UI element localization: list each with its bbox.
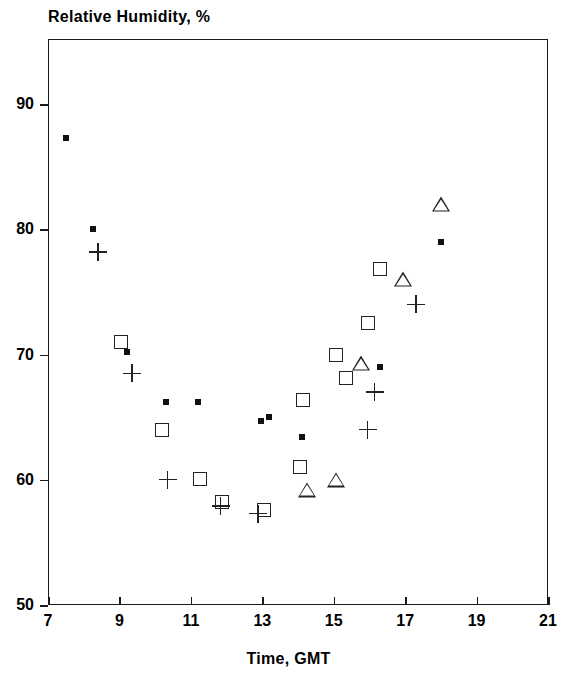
data-point-filled-square xyxy=(258,418,264,424)
data-point-plus xyxy=(159,471,177,489)
x-tick-label: 21 xyxy=(539,612,557,630)
data-point-triangle xyxy=(327,472,345,487)
triangle-inner xyxy=(329,475,343,486)
triangle-inner xyxy=(300,485,314,496)
data-point-filled-square xyxy=(266,414,272,420)
y-tick xyxy=(40,229,48,231)
y-tick-label: 80 xyxy=(16,220,34,238)
data-point-filled-square xyxy=(195,399,201,405)
x-tick xyxy=(334,597,336,605)
triangle-inner xyxy=(434,199,448,210)
relative-humidity-scatter-figure: Relative Humidity, % 5060708090 79111315… xyxy=(0,0,577,691)
data-point-filled-square xyxy=(377,364,383,370)
data-point-open-square xyxy=(193,472,207,486)
data-point-triangle xyxy=(352,356,370,371)
x-tick xyxy=(262,597,264,605)
plot-area xyxy=(48,39,548,605)
data-point-filled-square xyxy=(163,399,169,405)
x-tick-label: 19 xyxy=(468,612,486,630)
data-point-open-square xyxy=(114,335,128,349)
x-tick xyxy=(548,597,550,605)
data-point-plus xyxy=(89,243,107,261)
data-point-filled-square xyxy=(90,226,96,232)
data-point-triangle xyxy=(298,482,316,497)
data-point-open-square xyxy=(257,503,271,517)
triangle-inner xyxy=(396,274,410,285)
data-point-open-square xyxy=(373,262,387,276)
data-point-open-square xyxy=(339,371,353,385)
data-point-filled-square xyxy=(299,434,305,440)
data-point-triangle xyxy=(432,197,450,212)
data-point-plus xyxy=(359,421,377,439)
x-tick xyxy=(191,597,193,605)
data-point-open-square xyxy=(155,423,169,437)
x-tick-label: 11 xyxy=(182,612,199,630)
data-point-filled-square xyxy=(63,135,69,141)
data-point-plus xyxy=(366,383,384,401)
triangle-inner xyxy=(354,358,368,369)
data-point-filled-square xyxy=(124,349,130,355)
x-tick xyxy=(48,597,50,605)
x-axis-title: Time, GMT xyxy=(0,650,577,668)
data-point-open-square xyxy=(329,348,343,362)
x-tick xyxy=(477,597,479,605)
y-tick xyxy=(40,355,48,357)
x-tick-label: 13 xyxy=(253,612,271,630)
y-tick-label: 90 xyxy=(16,95,34,113)
data-point-triangle xyxy=(394,272,412,287)
x-tick-label: 7 xyxy=(44,612,53,630)
data-point-filled-square xyxy=(438,239,444,245)
data-point-open-square xyxy=(215,495,229,509)
y-tick xyxy=(40,104,48,106)
x-tick-label: 17 xyxy=(396,612,414,630)
data-point-open-square xyxy=(293,460,307,474)
data-point-open-square xyxy=(361,316,375,330)
x-tick-label: 9 xyxy=(115,612,124,630)
x-tick xyxy=(119,597,121,605)
y-tick-label: 70 xyxy=(16,346,34,364)
y-tick xyxy=(40,605,48,607)
x-tick xyxy=(405,597,407,605)
y-tick-label: 60 xyxy=(16,471,34,489)
data-point-plus xyxy=(407,295,425,313)
y-tick xyxy=(40,480,48,482)
data-point-open-square xyxy=(296,393,310,407)
page-title: Relative Humidity, % xyxy=(48,8,210,26)
y-tick-label: 50 xyxy=(16,596,34,614)
x-tick-label: 15 xyxy=(325,612,343,630)
data-point-plus xyxy=(123,364,141,382)
